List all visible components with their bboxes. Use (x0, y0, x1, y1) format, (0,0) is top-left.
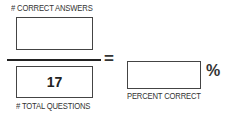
result-label: PERCENT CORRECT (127, 91, 201, 101)
total-questions-value (17, 67, 92, 97)
percent-correct-box[interactable] (127, 61, 201, 89)
correct-answers-box[interactable] (16, 17, 93, 50)
equals-sign: = (104, 49, 114, 69)
percent-correct-input[interactable] (128, 62, 200, 88)
percent-sign: % (206, 62, 220, 80)
numerator-label: # CORRECT ANSWERS (11, 3, 93, 13)
denominator-label: # TOTAL QUESTIONS (16, 101, 90, 111)
total-questions-box (16, 66, 93, 98)
fraction-line (7, 59, 101, 61)
correct-answers-input[interactable] (17, 18, 92, 49)
